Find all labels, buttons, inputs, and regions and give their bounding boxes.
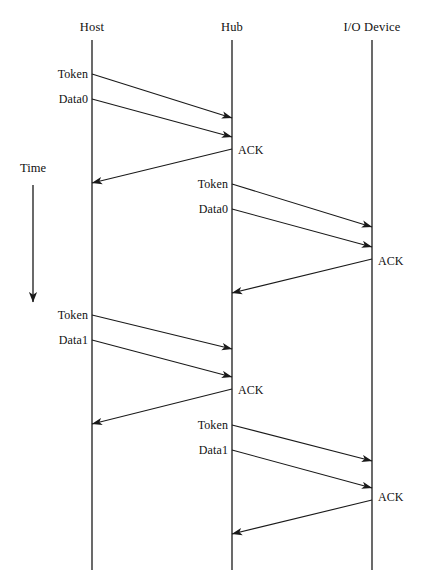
lifeline-header-host: Host [80,20,104,35]
message-label-m8: Data1 [59,333,88,348]
message-label-m11: Data1 [199,443,228,458]
message-arrow-m5 [232,209,372,247]
message-arrow-m7 [92,315,232,349]
message-label-m10: Token [198,418,228,433]
message-label-m1: Token [58,67,88,82]
message-label-m9: ACK [238,383,264,398]
message-label-m7: Token [58,308,88,323]
message-arrow-m1 [92,74,232,118]
message-label-m3: ACK [238,143,264,158]
lifelines-group [92,40,372,570]
message-arrow-m6 [232,259,372,293]
message-arrow-m2 [92,99,232,137]
time-axis-label: Time [20,161,46,176]
message-label-m6: ACK [378,254,404,269]
lifeline-header-hub: Hub [221,20,243,35]
lifeline-header-device: I/O Device [343,20,400,35]
sequence-diagram-canvas: HostHubI/O Device TokenData0ACKTokenData… [0,0,425,585]
message-label-m2: Data0 [59,92,88,107]
diagram-vector-layer [0,0,425,585]
message-arrow-m8 [92,340,232,377]
message-label-m4: Token [198,177,228,192]
message-arrow-m4 [232,184,372,227]
message-arrow-m12 [232,500,372,534]
message-label-m5: Data0 [199,202,228,217]
message-label-m12: ACK [378,490,404,505]
